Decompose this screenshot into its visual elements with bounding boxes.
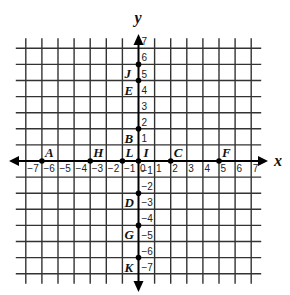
x-tick-label: 1: [156, 163, 162, 174]
x-tick-label: −1: [124, 163, 136, 174]
point-label: G: [125, 227, 135, 242]
x-tick-label: −3: [92, 163, 104, 174]
y-tick-label: 4: [142, 85, 148, 96]
x-axis-label: x: [273, 152, 282, 169]
point-label: B: [124, 131, 134, 146]
x-tick-label: −2: [108, 163, 120, 174]
y-tick-label: −4: [142, 213, 154, 224]
point-marker-icon: [216, 158, 222, 164]
x-tick-label: −5: [60, 163, 72, 174]
x-tick-label: 3: [188, 163, 194, 174]
point-marker-icon: [168, 158, 174, 164]
point-label: H: [92, 145, 104, 160]
y-tick-label: 5: [142, 69, 148, 80]
y-tick-label: 3: [142, 101, 148, 112]
point-label: J: [124, 66, 132, 81]
x-tick-label: 4: [204, 163, 210, 174]
point-label: I: [143, 145, 150, 160]
point-marker-icon: [136, 190, 142, 196]
x-tick-label: −7: [27, 163, 39, 174]
y-tick-label: 6: [142, 52, 148, 63]
y-tick-label: 1: [142, 133, 148, 144]
point-label: A: [44, 145, 54, 160]
y-axis-bottom-arrow-icon: [134, 281, 144, 292]
point-marker-icon: [87, 158, 93, 164]
y-axis-label: y: [133, 9, 143, 27]
point-marker-icon: [136, 62, 142, 68]
x-tick-label: 7: [253, 163, 259, 174]
x-tick-label: −6: [43, 163, 55, 174]
point-marker-icon: [136, 255, 142, 261]
point-label: K: [124, 260, 135, 275]
point-marker-icon: [136, 78, 142, 84]
point-marker-icon: [39, 158, 45, 164]
point-label: C: [174, 145, 183, 160]
x-tick-label: 6: [237, 163, 243, 174]
x-tick-label: 2: [172, 163, 178, 174]
coordinate-plane: x y −7−6−5−4−3−2−1012345677654321−1−2−3−…: [0, 0, 290, 295]
x-tick-label: 5: [221, 163, 227, 174]
point-marker-icon: [136, 223, 142, 229]
y-tick-label: −2: [142, 181, 154, 192]
point-marker-icon: [136, 158, 142, 164]
y-tick-label: −1: [142, 165, 154, 176]
y-tick-label: −5: [142, 230, 154, 241]
point-label: D: [124, 195, 135, 210]
coordinate-plane-diagram: x y −7−6−5−4−3−2−1012345677654321−1−2−3−…: [0, 0, 290, 295]
y-tick-label: −6: [142, 246, 154, 257]
y-tick-label: −3: [142, 197, 154, 208]
point-marker-icon: [120, 158, 126, 164]
point-label: E: [124, 83, 134, 98]
point-marker-icon: [136, 126, 142, 132]
x-axis-left-arrow-icon: [9, 156, 19, 166]
y-tick-label: 2: [142, 117, 148, 128]
y-tick-label: 7: [142, 36, 148, 47]
point-label: L: [124, 145, 133, 160]
x-axis-right-arrow-icon: [258, 156, 268, 166]
y-tick-label: −7: [142, 262, 154, 273]
point-label: F: [221, 145, 231, 160]
x-tick-label: −4: [76, 163, 88, 174]
